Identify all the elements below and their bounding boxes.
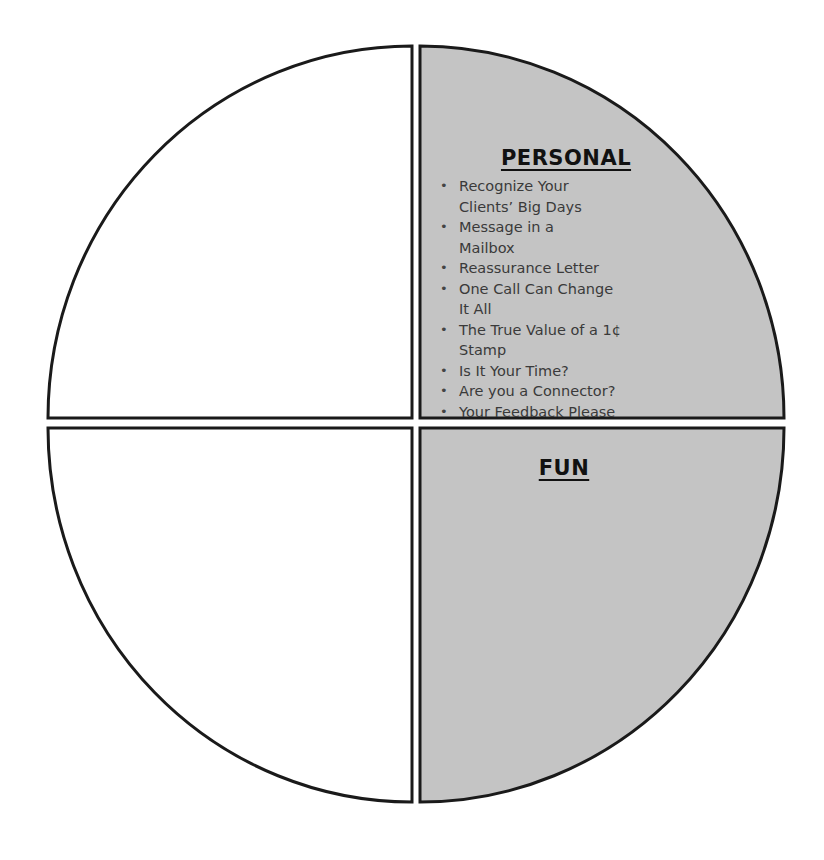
list-item: Message in aMailbox: [436, 217, 736, 258]
list-item: One Call Can ChangeIt All: [436, 279, 736, 320]
fun-quadrant-title: FUN: [494, 456, 634, 480]
quadrant-top-left: [48, 46, 412, 418]
list-item: Is It Your Time?: [436, 361, 736, 382]
list-item: Recognize YourClients’ Big Days: [436, 176, 736, 217]
list-item: The True Value of a 1¢Stamp: [436, 320, 736, 361]
list-item: Reassurance Letter: [436, 258, 736, 279]
quadrant-bottom-right-fun: [420, 428, 784, 802]
personal-quadrant-title: PERSONAL: [496, 146, 636, 170]
quadrant-bottom-left: [48, 428, 412, 802]
quadrant-circle-diagram: [0, 0, 824, 860]
personal-items-list: Recognize YourClients’ Big Days Message …: [436, 176, 736, 422]
list-item: Are you a Connector?: [436, 381, 736, 402]
list-item: Your Feedback Please: [436, 402, 736, 423]
